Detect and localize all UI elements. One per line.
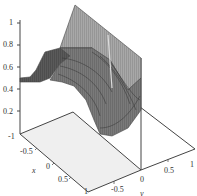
- y-tick-label: -0.5: [111, 186, 124, 194]
- x-tick-label: -1: [8, 133, 15, 141]
- z-tick-label: 0.4: [3, 86, 13, 94]
- x-tick-label: 0.5: [58, 176, 68, 184]
- y-tick-label: 0: [140, 176, 144, 184]
- y-tick-label: 1: [190, 161, 194, 169]
- x-tick-label: 0: [46, 163, 50, 171]
- x-tick-label: 1: [84, 188, 88, 196]
- x-axis-title: x: [32, 167, 36, 175]
- z-tick-label: 1: [9, 19, 13, 27]
- y-axis-title: y: [140, 190, 144, 196]
- y-tick-label: 0.5: [164, 167, 174, 175]
- x-tick-label: -0.5: [20, 148, 33, 156]
- z-tick-label: 0.6: [3, 64, 13, 72]
- z-tick-label: 0.2: [3, 108, 13, 116]
- z-tick-label: 0.8: [3, 41, 13, 49]
